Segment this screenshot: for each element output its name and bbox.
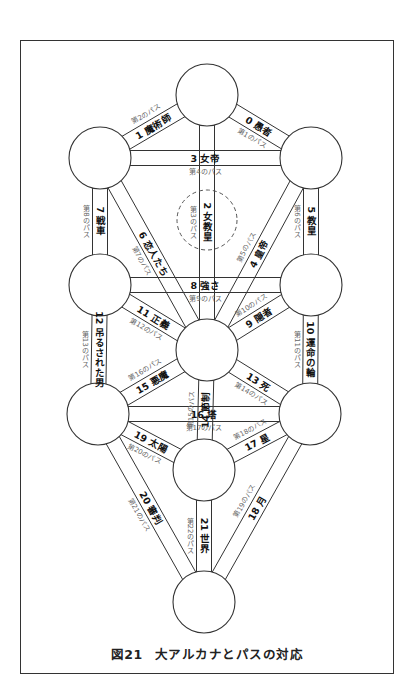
card-label: 5 教皇 bbox=[306, 207, 318, 237]
sephira-circle bbox=[173, 571, 235, 633]
path-number-label: 第6のパス bbox=[293, 204, 302, 237]
caption-number: 図21 bbox=[111, 647, 143, 662]
path-number-label: 第3のパス bbox=[189, 205, 198, 238]
card-label: 7 戦車 bbox=[95, 207, 106, 237]
path-number-label: 第9のパス bbox=[189, 294, 221, 303]
sephira-circle bbox=[280, 127, 342, 189]
card-label: 16 塔 bbox=[191, 409, 218, 420]
path-number-label: 第22のパス bbox=[186, 517, 195, 555]
path-number-label: 第8のパス bbox=[82, 204, 91, 237]
path-number-label: 第4のパス bbox=[189, 167, 221, 176]
card-label: 12 吊るされた男 bbox=[94, 311, 105, 388]
card-label: 10 運命の輪 bbox=[305, 321, 317, 378]
sephira-circle bbox=[67, 383, 129, 445]
sephira-circle bbox=[173, 439, 235, 501]
caption-title: 大アルカナとパスの対応 bbox=[155, 647, 304, 662]
sephira-circle bbox=[69, 127, 131, 189]
sephira-circle bbox=[176, 319, 238, 381]
card-label: 2 女教皇 bbox=[202, 203, 214, 243]
card-label: 3 女帝 bbox=[191, 153, 221, 164]
card-label: 21 世界 bbox=[199, 518, 210, 555]
path-number-label: 第13のパス bbox=[81, 330, 90, 368]
sephira-circle bbox=[279, 383, 341, 445]
card-label: 8 強さ bbox=[191, 280, 221, 291]
figure-caption: 図21大アルカナとパスの対応 bbox=[0, 644, 414, 663]
tree-of-life-diagram: 0 愚者第1のパス1 魔術師第2のパス2 女教皇第3のパス3 女帝第4のパス4 … bbox=[0, 0, 414, 699]
path-number-label: 第17のパス bbox=[186, 423, 223, 432]
sephira-circle bbox=[69, 254, 131, 316]
path-number-label: 第11のパス bbox=[293, 330, 302, 368]
sephira-circle bbox=[280, 254, 342, 316]
sephira-circle bbox=[176, 64, 238, 126]
